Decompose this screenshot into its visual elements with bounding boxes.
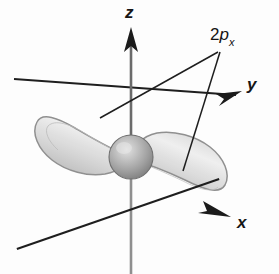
y-axis-label: y xyxy=(247,76,256,93)
x-axis-line xyxy=(16,179,221,249)
orbital-figure: z y x 2px xyxy=(0,0,279,274)
orbital-label-subscript: x xyxy=(229,36,235,48)
orbital-diagram-svg xyxy=(0,0,279,274)
x-axis-arrowhead xyxy=(198,201,231,217)
z-axis-label: z xyxy=(125,4,134,21)
y-axis-line xyxy=(14,79,236,95)
x-axis-label: x xyxy=(237,214,246,231)
nucleus-sphere xyxy=(109,135,153,179)
orbital-label: 2px xyxy=(210,26,234,46)
arrow-downright-icon xyxy=(198,201,231,217)
orbital-label-letter: p xyxy=(219,25,228,44)
